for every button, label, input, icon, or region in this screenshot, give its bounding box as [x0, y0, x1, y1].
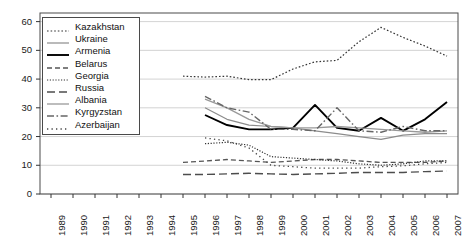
- series-line-azerbaijan: [205, 138, 447, 168]
- chart-legend: KazakhstanUkraineArmeniaBelarusGeorgiaRu…: [42, 17, 140, 135]
- y-tick-label: 10: [10, 159, 32, 170]
- x-tick-label: 1992: [122, 215, 133, 236]
- legend-label: Kazakhstan: [75, 22, 125, 32]
- legend-swatch-icon: [46, 71, 70, 81]
- legend-label: Albania: [75, 95, 107, 105]
- legend-item-armenia: Armenia: [46, 45, 135, 57]
- y-tick-label: 0: [10, 188, 32, 199]
- legend-item-belarus: Belarus: [46, 58, 135, 70]
- legend-item-russia: Russia: [46, 82, 135, 94]
- legend-label: Russia: [75, 83, 104, 93]
- y-tick-label: 20: [10, 131, 32, 142]
- x-tick-label: 2001: [320, 215, 331, 236]
- legend-label: Ukraine: [75, 34, 108, 44]
- legend-item-azerbaijan: Azerbaijan: [46, 119, 135, 131]
- y-tick-label: 30: [10, 102, 32, 113]
- x-tick-label: 2000: [298, 215, 309, 236]
- series-line-ukraine: [205, 108, 447, 140]
- y-tick-label: 40: [10, 73, 32, 84]
- series-line-armenia: [205, 102, 447, 131]
- legend-label: Armenia: [75, 46, 110, 56]
- x-tick-label: 2005: [408, 215, 419, 236]
- x-tick-label: 1990: [78, 215, 89, 236]
- legend-label: Belarus: [75, 59, 107, 69]
- x-tick-label: 1994: [166, 215, 177, 236]
- legend-swatch-icon: [46, 120, 70, 130]
- series-line-russia: [183, 171, 447, 174]
- legend-label: Kyrgyzstan: [75, 107, 122, 117]
- legend-swatch-icon: [46, 95, 70, 105]
- legend-label: Azerbaijan: [75, 120, 120, 130]
- y-axis-ticks: [36, 22, 40, 194]
- legend-swatch-icon: [46, 22, 70, 32]
- legend-item-kyrgyzstan: Kyrgyzstan: [46, 106, 135, 118]
- x-tick-label: 1996: [210, 215, 221, 236]
- x-tick-label: 2006: [430, 215, 441, 236]
- x-tick-label: 1989: [56, 215, 67, 236]
- x-tick-label: 2002: [342, 215, 353, 236]
- legend-item-albania: Albania: [46, 94, 135, 106]
- data-series-group: [183, 27, 447, 174]
- x-tick-label: 2003: [364, 215, 375, 236]
- y-tick-label: 60: [10, 16, 32, 27]
- x-tick-label: 1997: [232, 215, 243, 236]
- x-tick-label: 1998: [254, 215, 265, 236]
- x-axis-ticks: [51, 194, 447, 198]
- legend-swatch-icon: [46, 107, 70, 117]
- series-line-kazakhstan: [183, 27, 447, 79]
- x-tick-label: 1993: [144, 215, 155, 236]
- legend-swatch-icon: [46, 46, 70, 56]
- legend-swatch-icon: [46, 83, 70, 93]
- legend-item-ukraine: Ukraine: [46, 33, 135, 45]
- legend-swatch-icon: [46, 34, 70, 44]
- x-tick-label: 1999: [276, 215, 287, 236]
- line-chart: 6050403020100 19891990199119921993199419…: [0, 0, 470, 246]
- legend-label: Georgia: [75, 71, 109, 81]
- legend-item-kazakhstan: Kazakhstan: [46, 21, 135, 33]
- legend-item-georgia: Georgia: [46, 70, 135, 82]
- x-tick-label: 1991: [100, 215, 111, 236]
- legend-swatch-icon: [46, 59, 70, 69]
- x-tick-label: 1995: [188, 215, 199, 236]
- x-tick-label: 2007: [452, 215, 463, 236]
- y-tick-label: 50: [10, 44, 32, 55]
- x-tick-label: 2004: [386, 215, 397, 236]
